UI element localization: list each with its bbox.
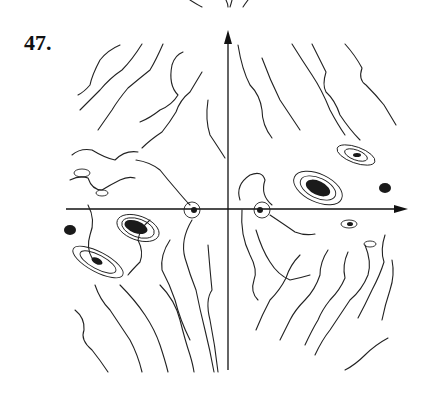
y-axis-arrow-icon	[224, 30, 232, 44]
axes	[66, 30, 408, 370]
left-spirals	[64, 169, 200, 284]
left-trajectories	[70, 44, 225, 372]
x-axis-arrow-icon	[394, 205, 408, 213]
top-fragments	[190, 0, 248, 7]
right-trajectories	[238, 44, 396, 370]
phase-portrait	[0, 0, 422, 394]
right-spirals	[254, 141, 391, 247]
